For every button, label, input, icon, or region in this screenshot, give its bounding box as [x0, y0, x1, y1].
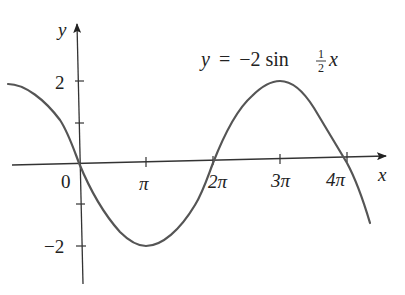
- x-axis: [12, 156, 386, 165]
- x-tick-label-2pi: 2π: [208, 171, 228, 192]
- svg-text:y = −2 sin: y = −2 sin: [199, 48, 289, 71]
- equation-label: y = −2 sin 1 2 x: [199, 47, 338, 75]
- svg-text:1: 1: [318, 47, 324, 61]
- y-axis-label: y: [56, 19, 67, 40]
- x-axis-label: x: [377, 164, 387, 185]
- x-tick-label-4pi: 4π: [326, 169, 346, 190]
- x-tick-label-0: 0: [61, 171, 71, 192]
- sine-graph: y x 0 π 2π 3π 4π 2 −2 y = −2 sin 1 2 x: [0, 0, 405, 295]
- x-tick-label-pi: π: [139, 173, 149, 194]
- svg-text:x: x: [328, 48, 338, 70]
- y-tick-label-2: 2: [55, 72, 65, 93]
- y-tick-label-neg2: −2: [44, 236, 64, 257]
- svg-text:2: 2: [318, 61, 324, 75]
- y-axis: [77, 24, 83, 284]
- x-tick-label-3pi: 3π: [270, 170, 291, 191]
